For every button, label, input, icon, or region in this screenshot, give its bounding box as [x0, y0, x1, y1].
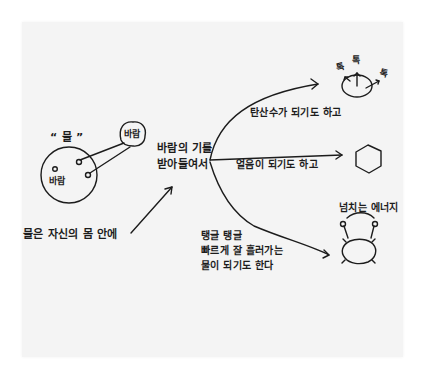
hexagon-ice-icon — [356, 145, 381, 173]
energy-label: 넘치는 에너지 — [339, 201, 399, 214]
wind-tube-icon — [80, 143, 124, 160]
branch-flow-label-1: 탱글 탱글 — [201, 229, 242, 242]
diagram-drawing — [0, 0, 426, 375]
wind-tube-icon — [90, 147, 130, 173]
branch-flow-label-2: 빠르게 잘 흘러가는 — [201, 244, 283, 257]
branch-flow-label-3: 물이 되기도 한다 — [201, 259, 274, 272]
bubble-sound-2: 톡 — [352, 55, 360, 65]
branch-carbonated-label: 탄산수가 되기도 하고 — [250, 106, 341, 119]
water-inner-label: 바람 — [49, 176, 66, 186]
branch-ice-label: 얼음이 되기도 하고 — [236, 158, 318, 171]
branch-top-arrow — [210, 84, 318, 160]
wind-bubble-label: 바람 — [124, 129, 141, 139]
center-text-line1: 바람의 기를 — [157, 142, 213, 155]
source-text: 물은 자신의 몸 안에 — [23, 228, 118, 241]
center-text-line2: 받아들여서 — [157, 158, 209, 171]
energetic-water-icon — [342, 239, 375, 263]
water-circle-icon — [41, 147, 97, 203]
arrow-to-center-icon — [131, 187, 172, 233]
water-title: “ 물 ” — [50, 131, 84, 144]
